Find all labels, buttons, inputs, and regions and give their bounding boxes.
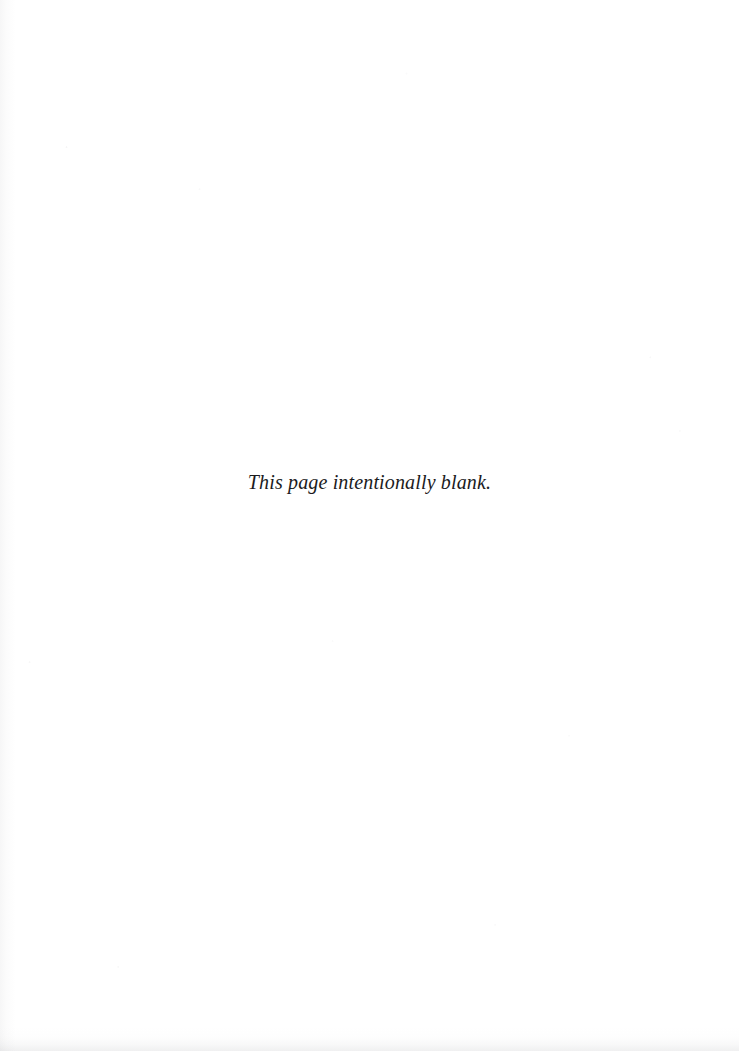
scan-speckle-texture — [0, 0, 739, 1051]
bottom-scan-edge-shadow — [0, 1027, 739, 1051]
blank-page-notice: This page intentionally blank. — [0, 470, 739, 494]
left-gutter-shadow — [0, 0, 16, 1051]
paper-tone-overlay — [0, 0, 739, 1051]
scanned-page: This page intentionally blank. — [0, 0, 739, 1051]
